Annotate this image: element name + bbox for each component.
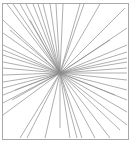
starburst-figure bbox=[0, 0, 132, 145]
ray-line bbox=[27, 73, 60, 138]
ray-line bbox=[60, 62, 127, 73]
ray-line bbox=[60, 73, 127, 125]
ray-line bbox=[33, 4, 60, 73]
ray-line bbox=[60, 73, 120, 130]
ray-line bbox=[15, 73, 60, 90]
ray-line bbox=[60, 73, 82, 138]
ray-line bbox=[20, 73, 60, 138]
radiating-lines bbox=[3, 4, 127, 138]
ray-line bbox=[60, 4, 63, 73]
ray-line bbox=[60, 73, 127, 90]
ray-line bbox=[60, 40, 110, 73]
